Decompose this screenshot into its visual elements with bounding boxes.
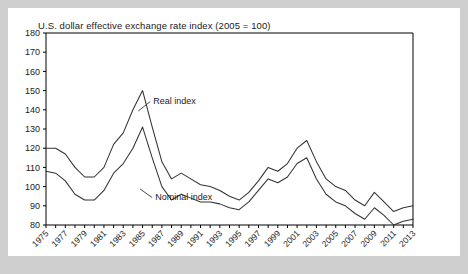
x-axis-label: 1977: [49, 228, 70, 249]
y-axis-label: 110: [26, 163, 40, 173]
x-axis-label: 2007: [339, 228, 360, 249]
real-index-leader-line: [138, 102, 150, 112]
nominal-index-annotation: Nominal index: [155, 192, 213, 202]
y-axis-label: 120: [25, 143, 40, 153]
y-axis-label: 160: [25, 67, 40, 77]
y-axis-label: 170: [25, 47, 40, 57]
x-axis-label: 1983: [107, 228, 128, 249]
x-axis-label: 1981: [88, 228, 109, 249]
y-axis-label: 100: [25, 182, 40, 192]
x-axis-label: 2009: [358, 228, 379, 249]
x-axis-label: 2001: [281, 228, 302, 249]
real-index-annotation: Real index: [153, 96, 196, 106]
x-axis-label: 1995: [223, 228, 244, 249]
line-chart: 8090100110120130140150160170180197519771…: [8, 8, 460, 256]
chart-card: U.S. dollar effective exchange rate inde…: [8, 8, 460, 256]
y-axis-label: 90: [30, 201, 40, 211]
x-axis-label: 1987: [146, 228, 167, 249]
x-axis-label: 2003: [300, 228, 321, 249]
series-line-nominal-index: [46, 127, 413, 225]
y-axis-label: 80: [30, 220, 40, 230]
x-axis-label: 1979: [69, 228, 90, 249]
x-axis-label: 1975: [30, 228, 51, 249]
x-axis-label: 1997: [242, 228, 263, 249]
x-axis-label: 2011: [378, 228, 398, 248]
x-axis-label: 1993: [204, 228, 225, 249]
y-axis-label: 130: [25, 124, 40, 134]
nominal-index-leader-line: [140, 189, 152, 198]
x-axis-label: 1999: [262, 228, 283, 249]
y-axis-label: 150: [25, 86, 40, 96]
y-axis-label: 140: [25, 105, 40, 115]
x-axis-label: 2005: [320, 228, 341, 249]
x-axis-label: 1989: [165, 228, 186, 249]
x-axis-label: 2013: [397, 228, 418, 249]
x-axis-label: 1985: [127, 228, 148, 249]
x-axis-label: 1991: [184, 228, 205, 249]
y-axis-label: 180: [25, 28, 40, 38]
